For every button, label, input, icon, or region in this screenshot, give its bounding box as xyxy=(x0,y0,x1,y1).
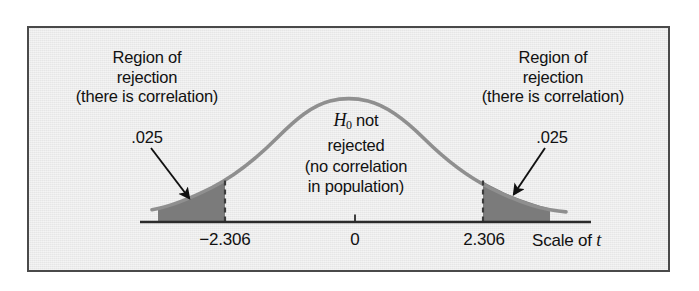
null-hypothesis-symbol: H xyxy=(334,110,347,130)
axis-title-prefix: Scale of xyxy=(532,231,596,250)
figure-root: Region of rejection (there is correlatio… xyxy=(0,0,699,291)
t-statistic-symbol: t xyxy=(596,230,601,250)
left-rejection-region-label: Region of rejection (there is correlatio… xyxy=(37,48,257,107)
left-tail-area-label: .025 xyxy=(103,128,191,148)
axis-label-positive-critical: 2.306 xyxy=(441,230,527,250)
left-region-line2: rejection xyxy=(37,68,257,88)
right-region-line1: Region of xyxy=(443,48,663,68)
right-region-line2: rejection xyxy=(443,68,663,88)
center-line1: H0 not xyxy=(268,110,444,135)
axis-title: Scale of t xyxy=(532,230,668,251)
left-region-line3: (there is correlation) xyxy=(37,87,257,107)
center-line3: (no correlation xyxy=(268,156,444,177)
center-line2: rejected xyxy=(268,135,444,156)
center-line1-rest: not xyxy=(352,111,379,129)
non-rejection-region-label: H0 not rejected (no correlation in popul… xyxy=(268,110,444,197)
right-rejection-region-label: Region of rejection (there is correlatio… xyxy=(443,48,663,107)
right-region-line3: (there is correlation) xyxy=(443,87,663,107)
axis-label-zero: 0 xyxy=(332,230,378,250)
center-line4: in population) xyxy=(268,176,444,197)
axis-label-negative-critical: −2.306 xyxy=(178,230,272,250)
right-tail-area-label: .025 xyxy=(508,128,596,148)
left-region-line1: Region of xyxy=(37,48,257,68)
